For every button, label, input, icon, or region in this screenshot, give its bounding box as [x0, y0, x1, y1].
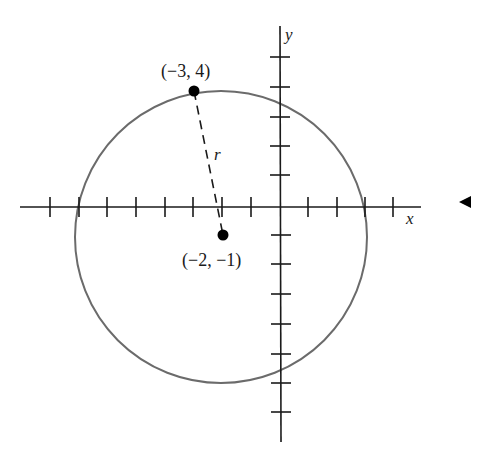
radius-label: r	[214, 145, 221, 164]
center-point	[218, 230, 229, 241]
center-point-label: (−2, −1)	[182, 250, 241, 271]
point-on-circle-label: (−3, 4)	[161, 61, 210, 82]
point-on-circle	[189, 86, 200, 97]
y-axis-label: y	[283, 25, 293, 44]
y-axis	[280, 26, 281, 442]
x-axis-label: x	[405, 209, 414, 228]
left-triangle-marker-icon	[459, 196, 471, 208]
coordinate-plane-diagram: x y r (−3, 4) (−2, −1)	[0, 0, 484, 462]
